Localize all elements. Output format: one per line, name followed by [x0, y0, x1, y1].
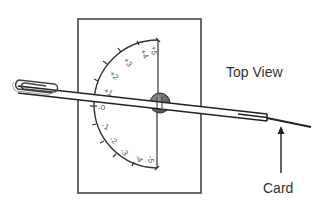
- scale-label-minus-4: -4: [133, 154, 145, 165]
- straw-top-edge: [18, 86, 267, 114]
- scale-label-minus-5: -5: [146, 155, 156, 163]
- scale-label-plus-2: +2: [108, 69, 121, 82]
- scale-label-zero: -0: [98, 103, 106, 112]
- card-arrow: [278, 126, 285, 173]
- scale-label-plus-4: +4: [138, 48, 150, 61]
- arrow-head-icon: [278, 126, 285, 134]
- scale-label-minus-1: -1: [100, 121, 111, 132]
- straw-bottom-edge: [18, 93, 267, 121]
- scale-label-plus-5: +5: [149, 45, 159, 55]
- scale-label-plus-3: +3: [121, 56, 134, 69]
- card-label: Card: [263, 180, 293, 196]
- balance-diagram: +1 +2 +3 +4 +5 -0 -1 -2 -3 -4 -5: [0, 0, 330, 208]
- card: [267, 118, 311, 127]
- top-view-label: Top View: [226, 64, 283, 80]
